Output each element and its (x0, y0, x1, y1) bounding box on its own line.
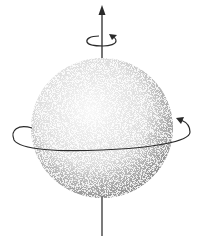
axis-arrowhead-icon (99, 5, 106, 15)
rotating-sphere-diagram (0, 0, 204, 244)
sphere (30, 57, 175, 199)
